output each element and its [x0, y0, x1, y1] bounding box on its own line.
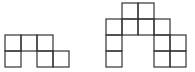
grid-cell	[154, 35, 170, 51]
grid-cell	[138, 3, 154, 19]
grid-cell	[170, 51, 186, 67]
grid-cell	[138, 19, 154, 35]
grid-cell	[106, 19, 122, 35]
grid-cell	[106, 35, 122, 51]
grid-cell	[106, 51, 122, 67]
grid-cell	[37, 51, 53, 67]
polyomino-diagram	[0, 0, 195, 72]
grid-cell	[154, 51, 170, 67]
right-polyomino	[106, 3, 186, 67]
grid-cell	[5, 51, 21, 67]
grid-cell	[154, 19, 170, 35]
grid-cell	[122, 19, 138, 35]
grid-cell	[37, 35, 53, 51]
grid-cell	[21, 35, 37, 51]
grid-cell	[122, 3, 138, 19]
grid-cell	[170, 35, 186, 51]
grid-cell	[5, 35, 21, 51]
left-polyomino	[5, 35, 69, 67]
grid-cell	[53, 51, 69, 67]
